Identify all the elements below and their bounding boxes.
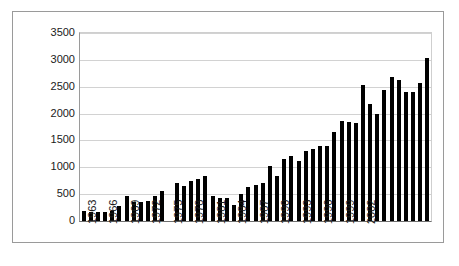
bar-series xyxy=(80,33,431,221)
bar xyxy=(404,92,408,221)
y-axis-tick-label: 2500 xyxy=(51,81,75,92)
x-axis-tick-label: 1999 xyxy=(345,200,356,224)
y-axis-tick-label: 3000 xyxy=(51,54,75,65)
bar xyxy=(390,77,394,222)
chart-frame: 0500100015002000250030003500 19631966196… xyxy=(12,11,444,243)
bar xyxy=(297,161,301,221)
x-axis-tick-label: 1975 xyxy=(173,200,184,224)
x-axis-tick-label: 1963 xyxy=(87,200,98,224)
bar xyxy=(397,80,401,221)
x-axis-tick-label: 1990 xyxy=(280,200,291,224)
x-axis-tick-label: 1969 xyxy=(130,200,141,224)
figure-caption xyxy=(14,254,454,266)
y-axis-tick-label: 3500 xyxy=(51,27,75,38)
y-axis-tick-label: 1500 xyxy=(51,134,75,145)
x-axis-tick-label: 1981 xyxy=(216,200,227,224)
x-axis-tick-label: 1984 xyxy=(237,200,248,224)
bar xyxy=(382,90,386,221)
bar xyxy=(340,121,344,221)
plot-area xyxy=(79,32,432,222)
y-axis-tick-label: 500 xyxy=(57,188,75,199)
bar xyxy=(411,92,415,221)
bar xyxy=(254,185,258,222)
y-axis-tick-label: 0 xyxy=(69,215,75,226)
y-axis-tick-label: 1000 xyxy=(51,161,75,172)
bar xyxy=(125,196,129,221)
x-axis-tick-label: 1966 xyxy=(108,200,119,224)
x-axis-tick-label: 1993 xyxy=(302,200,313,224)
x-axis-tick-label: 1996 xyxy=(323,200,334,224)
y-axis-tick-labels: 0500100015002000250030003500 xyxy=(27,32,75,222)
y-axis-tick-label: 2000 xyxy=(51,108,75,119)
bar xyxy=(418,83,422,221)
figure-container: 0500100015002000250030003500 19631966196… xyxy=(0,0,459,266)
bar xyxy=(82,211,86,221)
x-axis-tick-label: 2002 xyxy=(366,200,377,224)
x-axis-tick-label: 1987 xyxy=(259,200,270,224)
bar xyxy=(211,196,215,221)
x-axis-tick-label: 1972 xyxy=(151,200,162,224)
x-axis-tick-label: 1978 xyxy=(194,200,205,224)
bar xyxy=(425,58,429,221)
